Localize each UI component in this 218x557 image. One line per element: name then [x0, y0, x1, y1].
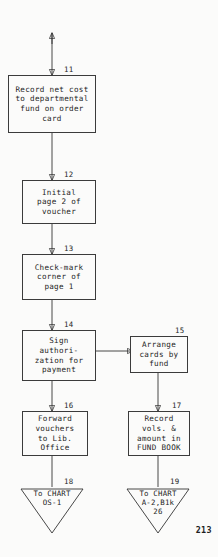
process-box-17-line-4: FUND BOOK	[137, 443, 181, 453]
process-box-16-line-1: Forward	[38, 414, 72, 424]
process-box-14-line-4: payment	[42, 365, 76, 375]
process-box-11-line-3: fund on order	[20, 104, 83, 114]
process-box-17-line-2: vols. &	[142, 424, 176, 434]
process-box-15-line-2: cards by	[140, 350, 179, 360]
step-number-19: 19	[170, 478, 179, 486]
terminator-19-line-2: A-2,B1k	[125, 498, 191, 507]
process-box-12-line-1: Initial	[42, 188, 76, 198]
process-box-12-line-3: voucher	[42, 207, 76, 217]
process-box-15-line-3: fund	[149, 359, 169, 369]
process-box-14-line-2: authori-	[40, 346, 79, 356]
flowchart-page: Record net cost to departmental fund on …	[0, 0, 218, 557]
process-box-15-line-1: Arrange	[142, 340, 176, 350]
process-box-11-line-4: card	[42, 114, 62, 124]
terminator-19-line-1: To CHART	[125, 489, 191, 498]
terminator-18[interactable]: To CHART OS-1	[19, 487, 85, 535]
page-number: 213	[196, 525, 212, 535]
process-box-13-line-1: Check-mark	[35, 263, 84, 273]
step-number-18: 18	[64, 478, 73, 486]
terminator-18-line-1: To CHART	[19, 489, 85, 498]
process-box-14[interactable]: Sign authori- zation for payment	[22, 330, 96, 381]
process-box-16[interactable]: Forward vouchers to Lib. Office	[22, 411, 88, 456]
process-box-13-line-3: page 1	[44, 282, 73, 292]
process-box-13-line-2: corner of	[37, 272, 81, 282]
process-box-14-line-3: zation for	[35, 356, 84, 366]
terminator-19-line-3: 26	[125, 507, 191, 516]
terminator-19-text: To CHART A-2,B1k 26	[125, 489, 191, 517]
step-number-16: 16	[64, 402, 73, 410]
step-number-15: 15	[175, 327, 184, 335]
step-number-13: 13	[64, 245, 73, 253]
process-box-12-line-2: page 2 of	[37, 197, 81, 207]
process-box-11-line-2: to departmental	[15, 94, 88, 104]
process-box-11-line-1: Record net cost	[15, 85, 88, 95]
process-box-17-line-1: Record	[144, 414, 173, 424]
step-number-17: 17	[172, 402, 181, 410]
step-number-12: 12	[64, 171, 73, 179]
process-box-16-line-4: Office	[40, 443, 69, 453]
step-number-11: 11	[64, 66, 73, 74]
process-box-15[interactable]: Arrange cards by fund	[130, 336, 188, 373]
process-box-16-line-3: to Lib.	[38, 434, 72, 444]
terminator-19[interactable]: To CHART A-2,B1k 26	[125, 487, 191, 535]
process-box-12[interactable]: Initial page 2 of voucher	[22, 180, 96, 224]
process-box-17-line-3: amount in	[137, 434, 181, 444]
step-number-14: 14	[64, 321, 73, 329]
terminator-18-line-2: OS-1	[19, 498, 85, 507]
process-box-14-line-1: Sign	[49, 336, 69, 346]
process-box-16-line-2: vouchers	[36, 424, 75, 434]
process-box-13[interactable]: Check-mark corner of page 1	[22, 254, 96, 300]
process-box-11[interactable]: Record net cost to departmental fund on …	[8, 75, 96, 133]
terminator-18-text: To CHART OS-1	[19, 489, 85, 507]
process-box-17[interactable]: Record vols. & amount in FUND BOOK	[128, 411, 190, 456]
